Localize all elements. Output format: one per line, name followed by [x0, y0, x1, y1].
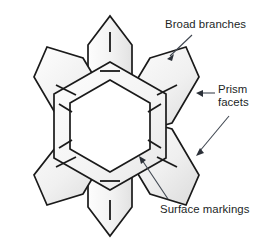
label-prism-facets: Prism facets: [218, 83, 249, 110]
label-prism-facets-line1: Prism: [218, 83, 249, 96]
leader-prism-facets-upper: [196, 90, 215, 97]
leader-prism-facets-lower: [196, 116, 229, 156]
snowflake-diagram-figure: Broad branches Prism facets Surface mark…: [0, 0, 264, 252]
label-broad-branches: Broad branches: [165, 18, 246, 31]
label-surface-markings: Surface markings: [160, 203, 249, 216]
label-prism-facets-line2: facets: [218, 96, 249, 109]
